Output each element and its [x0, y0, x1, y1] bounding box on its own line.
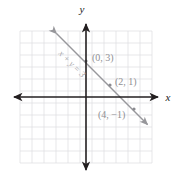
x-axis-label: x — [165, 91, 171, 103]
axes — [14, 24, 158, 170]
point-marker-2-1 — [108, 83, 111, 86]
graph-svg: y x x + y = 3 (0, 3) (2, 1) (4, −1) — [0, 0, 180, 177]
coordinate-plane-figure: y x x + y = 3 (0, 3) (2, 1) (4, −1) — [0, 0, 180, 177]
point-label-0-3: (0, 3) — [92, 52, 114, 64]
y-axis-label: y — [79, 3, 85, 15]
point-marker-4-neg1 — [132, 107, 135, 110]
line-equation-label: x + y = 3 — [56, 48, 88, 80]
point-label-4-neg1: (4, −1) — [98, 109, 125, 121]
point-label-2-1: (2, 1) — [115, 76, 137, 88]
